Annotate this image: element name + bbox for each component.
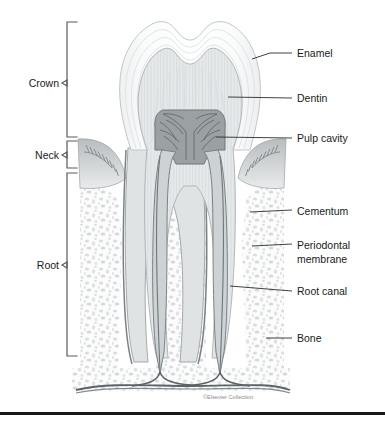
copyright-credit: ©Elsevier Collection [203,394,253,400]
label-dentin: Dentin [297,92,328,104]
label-root: Root [37,259,59,271]
label-periodontal-membrane-line2: membrane [297,253,347,265]
bottom-shadow-band [0,415,385,424]
bone-left [80,183,122,372]
label-root-canal: Root canal [297,285,347,297]
label-bone: Bone [297,332,322,344]
label-enamel: Enamel [297,47,333,59]
label-periodontal-membrane-line1: Periodontal [297,239,350,251]
label-crown: Crown [29,77,60,89]
label-neck: Neck [35,149,60,161]
label-pulp-cavity: Pulp cavity [297,132,349,144]
tooth-anatomy-diagram: Crown Neck Root Enamel Dentin Pulp cavit… [0,0,385,424]
label-cementum: Cementum [297,205,349,217]
